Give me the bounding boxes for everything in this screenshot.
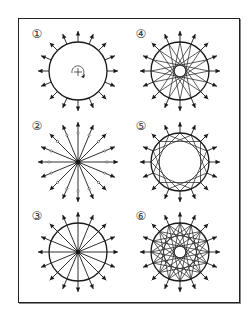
arrowhead-icon xyxy=(38,69,43,73)
spoke-marker xyxy=(56,181,58,183)
arrowhead-icon xyxy=(76,198,80,203)
arrowhead-icon xyxy=(76,31,80,36)
arrowhead-icon xyxy=(178,122,182,127)
arrowhead-icon xyxy=(178,288,182,293)
diagram-panel-2 xyxy=(38,122,118,202)
arrowhead-icon xyxy=(38,250,43,254)
diagram-canvas xyxy=(0,0,251,315)
spoke-marker xyxy=(66,188,68,190)
arrowhead-icon xyxy=(76,288,80,293)
panel-label-4: ④ xyxy=(135,28,147,40)
arrowhead-icon xyxy=(178,198,182,203)
spoke-marker xyxy=(88,134,90,136)
arrowhead-icon xyxy=(38,160,43,164)
diagram-panel-3 xyxy=(38,212,118,292)
center-dot xyxy=(75,159,80,164)
spoke-marker xyxy=(66,134,68,136)
spoke-marker xyxy=(88,188,90,190)
spoke-marker xyxy=(77,190,79,192)
spoke-marker xyxy=(77,132,79,134)
diagram-panel-4 xyxy=(140,31,220,111)
arrowhead-icon xyxy=(216,69,221,73)
spoke-marker xyxy=(50,172,52,174)
arrowhead-icon xyxy=(76,122,80,127)
arrowhead-icon xyxy=(216,250,221,254)
spoke-marker xyxy=(48,161,50,163)
arrowhead-icon xyxy=(140,160,145,164)
diagram-panel-5 xyxy=(140,122,220,202)
panel-label-1: ① xyxy=(31,28,43,40)
arrowhead-icon xyxy=(216,160,221,164)
arrowhead-icon xyxy=(178,212,182,217)
spoke-marker xyxy=(106,161,108,163)
arrowhead-icon xyxy=(76,212,80,217)
diagram-panel-6 xyxy=(140,212,220,292)
spoke-marker xyxy=(104,172,106,174)
spoke-marker xyxy=(56,140,58,142)
arrowhead-icon xyxy=(114,160,119,164)
spoke-marker xyxy=(104,150,106,152)
arrowhead-icon xyxy=(140,69,145,73)
panel-label-5: ⑤ xyxy=(135,120,147,132)
arrowhead-icon xyxy=(178,107,182,112)
arrowhead-icon xyxy=(114,250,119,254)
spoke-marker xyxy=(50,150,52,152)
spoke-marker xyxy=(97,140,99,142)
arrowhead-icon xyxy=(114,69,119,73)
arrowhead-icon xyxy=(76,107,80,112)
center-dot xyxy=(76,250,81,255)
diagram-panel-1 xyxy=(38,31,118,111)
arrowhead-icon xyxy=(178,31,182,36)
panel-label-3: ③ xyxy=(31,210,43,222)
panel-label-2: ② xyxy=(31,120,43,132)
panel-label-6: ⑥ xyxy=(135,210,147,222)
spoke-marker xyxy=(97,181,99,183)
arrowhead-icon xyxy=(140,250,145,254)
